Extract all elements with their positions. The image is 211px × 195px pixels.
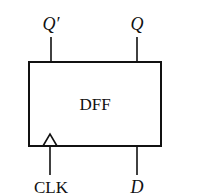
dff-diagram: DFF Q′ Q CLK D [0, 0, 211, 195]
d-label: D [130, 177, 144, 195]
clk-label: CLK [34, 178, 69, 195]
block-label: DFF [79, 95, 110, 114]
q-label: Q [131, 14, 144, 34]
q-bar-label: Q′ [43, 14, 61, 34]
clock-edge-icon [43, 134, 57, 146]
